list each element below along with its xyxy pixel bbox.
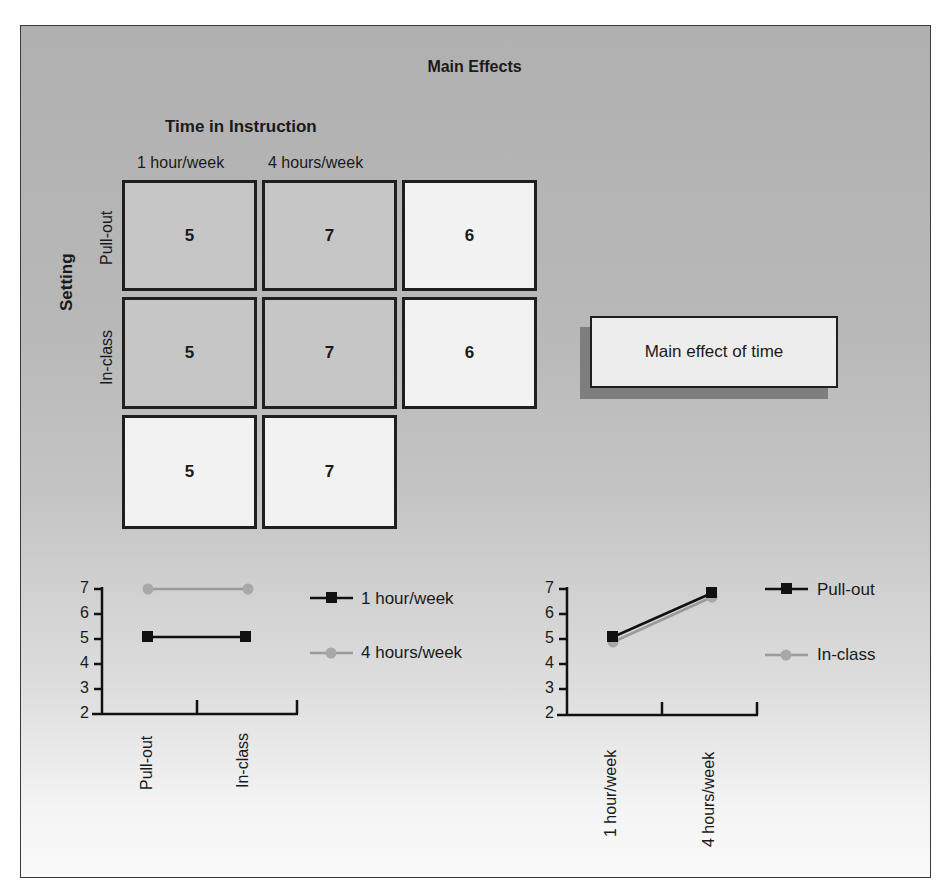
y-tick-4: 4 [80,654,89,672]
cell-inclass-1hr: 5 [122,297,257,409]
row-header-pullout: Pull-out [98,211,116,265]
x-label-4hours: 4 hours/week [700,752,718,847]
x-label-1hour: 1 hour/week [602,750,620,837]
column-header-1hr: 1 hour/week [137,154,224,172]
y-tick-6: 6 [80,604,89,622]
y-tick-7: 7 [80,579,89,597]
column-mean-1hr: 5 [122,415,257,529]
column-header-4hr: 4 hours/week [268,154,363,172]
column-factor-label: Time in Instruction [165,117,317,137]
row-header-inclass: In-class [98,330,116,385]
y-tick-7-right: 7 [545,579,554,597]
legend-pullout-label: Pull-out [817,580,875,600]
legend-inclass-label: In-class [817,645,876,665]
main-effect-callout: Main effect of time [590,316,838,388]
column-mean-4hr: 7 [262,415,397,529]
row-factor-label: Setting [57,253,77,311]
callout-text: Main effect of time [645,342,784,362]
cell-pullout-4hr: 7 [262,180,397,291]
cell-pullout-1hr: 5 [122,180,257,291]
y-tick-6-right: 6 [545,604,554,622]
y-tick-2-right: 2 [545,704,554,722]
row-mean-pullout: 6 [402,180,537,291]
y-tick-5: 5 [80,629,89,647]
x-label-pullout: Pull-out [138,736,156,790]
x-label-inclass: In-class [234,733,252,788]
cell-inclass-4hr: 7 [262,297,397,409]
y-tick-4-right: 4 [545,654,554,672]
figure-title: Main Effects [0,58,949,76]
y-tick-3: 3 [80,679,89,697]
legend-4hours-label: 4 hours/week [361,643,462,663]
y-tick-2: 2 [80,704,89,722]
legend-1hour-label: 1 hour/week [361,589,454,609]
y-tick-3-right: 3 [545,679,554,697]
row-mean-inclass: 6 [402,297,537,409]
y-tick-5-right: 5 [545,629,554,647]
